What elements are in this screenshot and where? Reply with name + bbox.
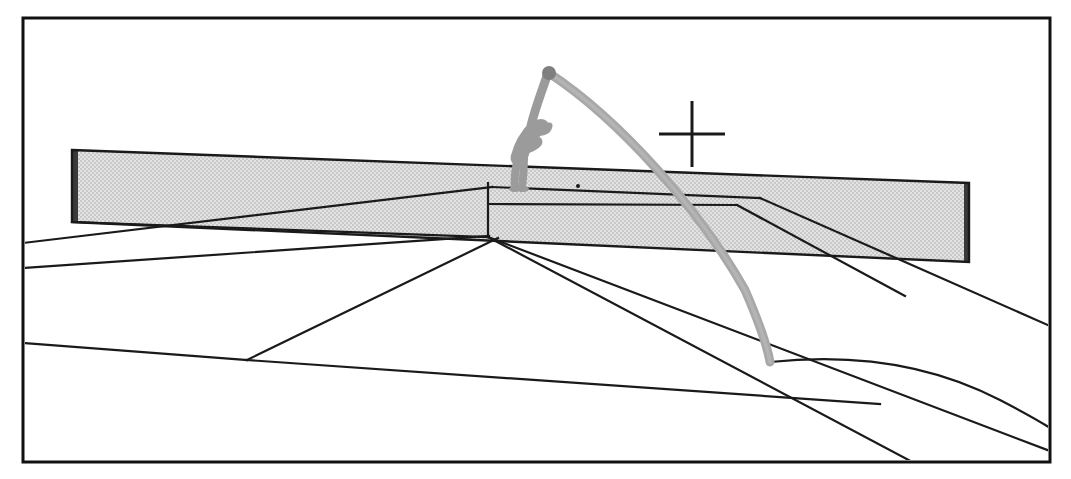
scene-svg: [0, 0, 1071, 479]
figure-leg-back: [515, 158, 518, 188]
figure-grip-hand: [542, 66, 556, 80]
ground-line-band-shelf-lower: [489, 204, 737, 205]
figure-foot-front: [517, 186, 529, 192]
band-dot-marker: [576, 184, 580, 188]
figure-leg-front: [522, 158, 524, 188]
illustration-stage: Pole Vault Scene Line Drawing technical-…: [0, 0, 1071, 479]
